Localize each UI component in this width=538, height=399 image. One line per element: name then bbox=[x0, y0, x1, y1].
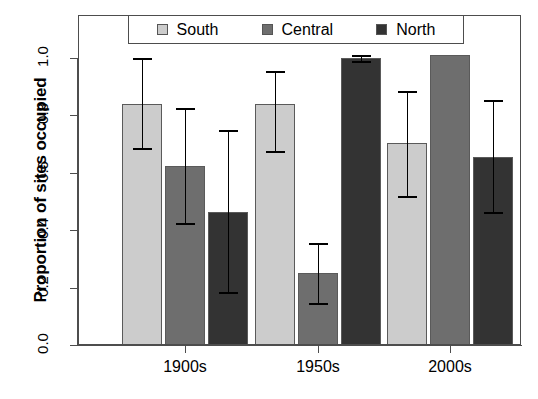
error-bar-cap-lower bbox=[309, 303, 328, 305]
square-swatch-icon bbox=[376, 24, 387, 35]
error-bar-cap-upper bbox=[398, 91, 417, 93]
legend-label: South bbox=[177, 21, 219, 39]
error-bar-cap-lower bbox=[219, 292, 238, 294]
error-bar-cap-upper bbox=[219, 130, 238, 132]
error-bar-line bbox=[493, 100, 494, 212]
bar-chart-figure: Proportion of sites occupied 0.00.20.40.… bbox=[0, 0, 538, 399]
error-bar-line bbox=[142, 58, 143, 148]
legend-entry-north: North bbox=[376, 21, 435, 39]
error-bar-cap-lower bbox=[176, 223, 195, 225]
legend-label: North bbox=[396, 21, 435, 39]
square-swatch-icon bbox=[157, 24, 168, 35]
error-bar-cap-upper bbox=[352, 55, 371, 57]
square-swatch-icon bbox=[262, 24, 273, 35]
error-bar-line bbox=[275, 71, 276, 151]
error-bar-cap-lower bbox=[266, 151, 285, 153]
plot-area bbox=[0, 0, 538, 399]
error-bar-cap-lower bbox=[352, 61, 371, 63]
error-bar-cap-upper bbox=[309, 243, 328, 245]
error-bar-line bbox=[407, 91, 408, 196]
error-bar-line bbox=[228, 130, 229, 292]
error-bar-line bbox=[185, 108, 186, 223]
bar bbox=[341, 58, 381, 345]
error-bar-cap-lower bbox=[133, 148, 152, 150]
error-bar-line bbox=[318, 243, 319, 303]
error-bar-cap-lower bbox=[484, 212, 503, 214]
bar bbox=[430, 55, 470, 345]
error-bar-cap-upper bbox=[484, 100, 503, 102]
legend-label: Central bbox=[282, 21, 334, 39]
error-bar-cap-upper bbox=[176, 108, 195, 110]
legend-entry-south: South bbox=[157, 21, 219, 39]
error-bar-cap-upper bbox=[266, 71, 285, 73]
error-bar-cap-upper bbox=[133, 58, 152, 60]
legend-entry-central: Central bbox=[262, 21, 334, 39]
error-bar-cap-lower bbox=[398, 196, 417, 198]
chart-legend: SouthCentralNorth bbox=[128, 15, 464, 44]
